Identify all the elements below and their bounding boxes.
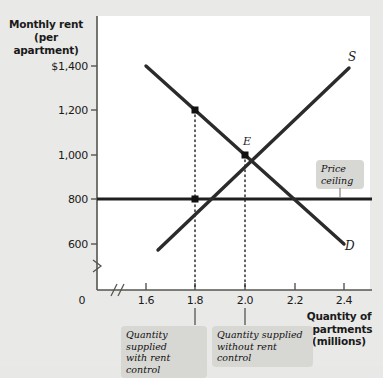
point-marker-supply-at-ceiling <box>192 196 199 203</box>
point-marker-demand-at-ceiling <box>192 107 199 114</box>
point-marker-equilibrium <box>242 152 249 159</box>
